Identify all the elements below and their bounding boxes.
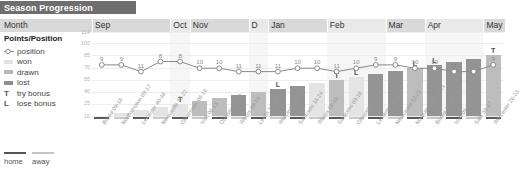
- position-value-label: 11: [132, 63, 150, 69]
- month-separator: [92, 19, 93, 32]
- position-value-label: 8: [152, 53, 170, 59]
- legend-item-label: lose bonus: [17, 99, 56, 108]
- y-tick-label: 25: [84, 101, 90, 106]
- month-separator: [483, 19, 484, 32]
- position-value-label: 10: [406, 59, 424, 65]
- swatch-drawn-icon: [4, 70, 13, 74]
- position-point: [452, 69, 457, 74]
- month-separator: [249, 19, 250, 32]
- month-label-Jan: Jan: [271, 19, 285, 32]
- position-value-label: 11: [269, 63, 287, 69]
- swatch-lost-icon: [4, 81, 17, 85]
- legend-heading: Points/Position: [4, 34, 76, 43]
- position-point: [256, 69, 261, 74]
- legend-item-label: won: [17, 57, 32, 66]
- position-point: [236, 69, 241, 74]
- y-tick-label: 70: [84, 65, 90, 70]
- swatch-drawn-icon: [4, 70, 17, 74]
- swatch-won-icon: [4, 60, 17, 64]
- position-value-label: 9: [112, 56, 130, 62]
- l-bonus-glyph: L: [4, 99, 17, 108]
- position-value-label: 11: [249, 63, 267, 69]
- month-label-May: May: [486, 19, 502, 32]
- away-line-swatch: [32, 152, 54, 155]
- position-marker-icon: [4, 48, 17, 55]
- y-tick-label: 40: [84, 89, 90, 94]
- position-value-label: 10: [289, 59, 307, 65]
- position-point: [119, 62, 124, 67]
- month-separator: [327, 19, 328, 32]
- l-bonus-glyph: L: [4, 99, 9, 108]
- month-label-Sep: Sep: [95, 19, 110, 32]
- month-separator: [425, 19, 426, 32]
- position-value-label: 10: [347, 59, 365, 65]
- position-point: [432, 66, 437, 71]
- swatch-won-icon: [4, 60, 13, 64]
- position-value-label: 8: [171, 53, 189, 59]
- legend-item-position: position: [4, 46, 76, 57]
- month-label-Feb: Feb: [330, 19, 345, 32]
- y-tick-label: 85: [84, 53, 90, 58]
- position-value-label: 9: [367, 56, 385, 62]
- position-point: [158, 59, 163, 64]
- page-title: Season Progression: [0, 3, 93, 13]
- position-value-label: 10: [210, 59, 228, 65]
- position-point: [295, 66, 300, 71]
- position-point: [139, 69, 144, 74]
- position-value-label: 10: [308, 59, 326, 65]
- position-value-label: 9: [93, 56, 111, 62]
- month-row-label: Month: [4, 19, 28, 32]
- swatch-lost-icon: [4, 81, 13, 85]
- y-tick-label: 55: [84, 77, 90, 82]
- legend-item-lose-bonus: Llose bonus: [4, 99, 76, 110]
- position-value-label: 11: [445, 63, 463, 69]
- position-point: [334, 69, 339, 74]
- position-point: [99, 62, 104, 67]
- position-value-label: 11: [465, 63, 483, 69]
- y-tick-label: 100: [81, 41, 90, 46]
- month-label-Nov: Nov: [193, 19, 208, 32]
- legend: Points/Position positionwondrawnlostTtry…: [4, 34, 76, 109]
- month-label-Apr: Apr: [428, 19, 441, 32]
- month-separator: [268, 19, 269, 32]
- widget-title-bar: Season Progression: [0, 1, 136, 14]
- position-point: [315, 66, 320, 71]
- legend-item-won: won: [4, 57, 76, 68]
- month-separator: [386, 19, 387, 32]
- position-point: [413, 66, 418, 71]
- position-point: [373, 62, 378, 67]
- t-bonus-glyph: T: [4, 89, 9, 98]
- position-point: [354, 66, 359, 71]
- month-separator: [170, 19, 171, 32]
- position-point: [393, 62, 398, 67]
- legend-item-label: try bonus: [17, 89, 50, 98]
- position-point: [276, 69, 281, 74]
- legend-item-lost: lost: [4, 78, 76, 89]
- y-tick-label: 114: [81, 30, 90, 35]
- month-label-Mar: Mar: [389, 19, 404, 32]
- home-legend-label: home: [4, 157, 26, 166]
- position-point: [217, 66, 222, 71]
- position-point: [178, 59, 183, 64]
- legend-item-drawn: drawn: [4, 67, 76, 78]
- position-value-label: 11: [328, 63, 346, 69]
- position-value-label: 9: [386, 56, 404, 62]
- position-value-label: 10: [191, 59, 209, 65]
- position-marker-icon: [4, 48, 15, 55]
- month-label-D: D: [252, 19, 258, 32]
- position-value-label: 11: [230, 63, 248, 69]
- t-bonus-glyph: T: [4, 89, 17, 98]
- position-value-label: 10: [426, 59, 444, 65]
- legend-item-label: position: [17, 47, 45, 56]
- legend-item-try-bonus: Ttry bonus: [4, 88, 76, 99]
- home-away-legend: home away: [4, 150, 80, 166]
- position-point: [471, 69, 476, 74]
- position-point: [491, 62, 496, 67]
- month-label-Oct: Oct: [173, 19, 186, 32]
- position-point: [197, 66, 202, 71]
- away-legend-label: away: [32, 157, 54, 166]
- position-value-label: 9: [484, 56, 502, 62]
- legend-item-label: lost: [17, 78, 29, 87]
- legend-item-label: drawn: [17, 68, 39, 77]
